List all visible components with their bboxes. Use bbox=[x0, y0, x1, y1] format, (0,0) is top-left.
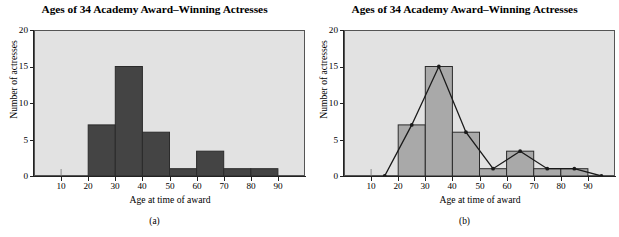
x-tick-label: 50 bbox=[158, 181, 182, 191]
y-tick-label: 10 bbox=[314, 98, 338, 108]
figure-container: Ages of 34 Academy Award–Winning Actress… bbox=[0, 0, 619, 237]
x-axis-title-a: Age at time of award bbox=[34, 194, 306, 205]
x-tick-label: 80 bbox=[549, 181, 573, 191]
x-tick-label: 20 bbox=[76, 181, 100, 191]
y-tick-label: 5 bbox=[4, 135, 28, 145]
y-tick-label: 15 bbox=[4, 61, 28, 71]
histogram-bar bbox=[115, 67, 142, 177]
panel-caption-a: (a) bbox=[0, 216, 309, 226]
x-axis-title-b: Age at time of award bbox=[344, 194, 616, 205]
histogram-bar bbox=[224, 169, 251, 176]
y-tick-labels-a: 20 15 10 5 0 bbox=[0, 0, 28, 237]
histogram-bar bbox=[88, 125, 115, 176]
y-tick-label: 10 bbox=[4, 98, 28, 108]
histogram-bar bbox=[452, 132, 479, 176]
x-tick-label: 20 bbox=[386, 181, 410, 191]
plot-area-a bbox=[34, 30, 305, 176]
chart-title-a: Ages of 34 Academy Award–Winning Actress… bbox=[0, 3, 309, 15]
y-tick-mark bbox=[30, 176, 34, 177]
x-tick-label: 10 bbox=[359, 181, 383, 191]
x-tick-label: 90 bbox=[576, 181, 600, 191]
data-point-marker bbox=[545, 167, 549, 171]
histogram-bars-b bbox=[344, 30, 615, 176]
chart-panel-a: Ages of 34 Academy Award–Winning Actress… bbox=[0, 0, 309, 237]
panel-caption-b: (b) bbox=[310, 216, 619, 226]
y-tick-label: 0 bbox=[4, 171, 28, 181]
x-tick-label: 30 bbox=[413, 181, 437, 191]
y-tick-label: 0 bbox=[314, 171, 338, 181]
x-tick-label: 90 bbox=[266, 181, 290, 191]
data-point-marker bbox=[600, 174, 604, 176]
x-tick-label: 60 bbox=[185, 181, 209, 191]
chart-panel-b: Ages of 34 Academy Award–Winning Actress… bbox=[310, 0, 619, 237]
data-point-marker bbox=[437, 65, 441, 69]
x-tick-label: 40 bbox=[130, 181, 154, 191]
plot-area-b bbox=[344, 30, 615, 176]
x-tick-label: 30 bbox=[103, 181, 127, 191]
histogram-bar bbox=[398, 125, 425, 176]
histogram-bar bbox=[142, 132, 169, 176]
data-point-marker bbox=[572, 167, 576, 171]
data-point-marker bbox=[410, 123, 414, 127]
y-tick-label: 5 bbox=[314, 135, 338, 145]
histogram-bar bbox=[425, 67, 452, 177]
data-point-marker bbox=[491, 167, 495, 171]
histogram-bar bbox=[170, 169, 197, 176]
x-tick-label: 40 bbox=[440, 181, 464, 191]
chart-title-b: Ages of 34 Academy Award–Winning Actress… bbox=[310, 3, 619, 15]
x-tick-label: 50 bbox=[468, 181, 492, 191]
histogram-bar bbox=[507, 151, 534, 176]
histogram-bars-a bbox=[34, 30, 305, 176]
x-tick-label: 70 bbox=[522, 181, 546, 191]
y-tick-label: 15 bbox=[314, 61, 338, 71]
x-tick-label: 60 bbox=[495, 181, 519, 191]
x-tick-label: 80 bbox=[239, 181, 263, 191]
data-point-marker bbox=[464, 130, 468, 134]
y-tick-label: 20 bbox=[314, 25, 338, 35]
y-tick-label: 20 bbox=[4, 25, 28, 35]
data-point-marker bbox=[518, 149, 522, 153]
x-tick-label: 70 bbox=[212, 181, 236, 191]
y-tick-labels-b: 20 15 10 5 0 bbox=[310, 0, 338, 237]
histogram-bar bbox=[197, 151, 224, 176]
y-tick-mark bbox=[340, 176, 344, 177]
x-tick-label: 10 bbox=[49, 181, 73, 191]
histogram-bar bbox=[251, 169, 278, 176]
